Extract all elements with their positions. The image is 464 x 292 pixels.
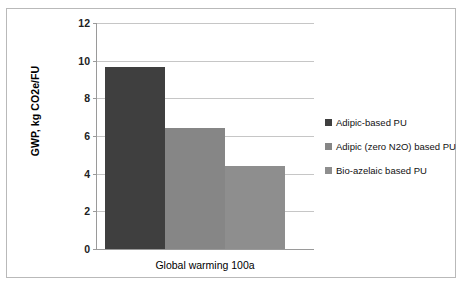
bar	[105, 67, 165, 249]
y-axis-tick-label: 8	[84, 92, 90, 104]
legend-item: Bio-azelaic based PU	[325, 165, 453, 176]
y-axis-tick-label: 10	[78, 55, 90, 67]
bar	[165, 128, 225, 249]
legend-swatch-icon	[325, 119, 332, 126]
legend-item: Adipic (zero N2O) based PU	[325, 141, 453, 152]
gridline	[97, 249, 314, 250]
y-axis-title: GWP, kg CO2e/FU	[29, 31, 41, 191]
legend-item: Adipic-based PU	[325, 117, 453, 128]
bar-series-group	[97, 23, 314, 249]
bar	[225, 166, 285, 249]
y-axis-tick-mark	[93, 249, 97, 250]
chart-container: GWP, kg CO2e/FU 024681012 Global warming…	[6, 8, 456, 278]
y-axis-tick-label: 0	[84, 243, 90, 255]
y-axis-tick-label: 2	[84, 205, 90, 217]
legend-label: Adipic-based PU	[336, 117, 407, 128]
legend-swatch-icon	[325, 143, 332, 150]
legend-label: Bio-azelaic based PU	[336, 165, 427, 176]
chart-legend: Adipic-based PUAdipic (zero N2O) based P…	[325, 117, 453, 189]
plot-area: 024681012	[96, 23, 314, 249]
y-axis-tick-label: 4	[84, 168, 90, 180]
y-axis-tick-label: 6	[84, 130, 90, 142]
legend-swatch-icon	[325, 167, 332, 174]
y-axis-tick-label: 12	[78, 17, 90, 29]
x-axis-category-label: Global warming 100a	[96, 259, 314, 271]
legend-label: Adipic (zero N2O) based PU	[336, 141, 456, 152]
